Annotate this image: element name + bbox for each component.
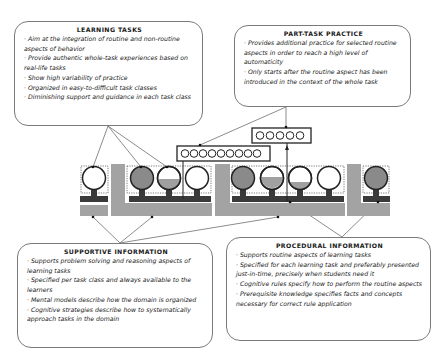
part-task-practice-box: PART-TASK PRACTICE Provides additional p… (234, 25, 411, 107)
learning-tasks-item: Show high variability of practice (24, 73, 195, 83)
supportive-information-item: Mental models describe how the domain is… (27, 295, 205, 305)
supportive-information-item: Specified per task class and always avai… (27, 275, 205, 294)
procedural-information-item: Cognitive rules specify how to perform t… (236, 279, 423, 289)
part-task-practice-item: Only starts after the routine aspect has… (244, 67, 403, 86)
part-task-practice-title: PART-TASK PRACTICE (244, 30, 403, 37)
learning-tasks-item: Provide authentic whole-task experiences… (24, 53, 195, 72)
supportive-information-item: Supports problem solving and reasoning a… (27, 256, 205, 275)
support-bars (80, 196, 390, 202)
learning-tasks-title: LEARNING TASKS (24, 26, 195, 33)
learning-task-circles (83, 166, 388, 197)
procedural-information-item: Supports routine aspects of learning tas… (236, 250, 423, 260)
supportive-information-title: SUPPORTIVE INFORMATION (27, 248, 205, 255)
part-task-practice-item: Provides additional practice for selecte… (244, 38, 403, 67)
supportive-information-box: SUPPORTIVE INFORMATION Supports problem … (17, 243, 213, 348)
procedural-information-item: Prerequisite knowledge specifies facts a… (236, 289, 423, 308)
learning-tasks-box: LEARNING TASKS Aim at the integration of… (14, 21, 203, 126)
supportive-information-item: Cognitive strategies describe how to sys… (27, 305, 205, 324)
learning-tasks-item: Diminishing support and guidance in each… (24, 92, 195, 102)
procedural-information-item: Specified for each learning task and pre… (236, 260, 423, 279)
procedural-information-box: PROCEDURAL INFORMATION Supports routine … (226, 237, 431, 341)
learning-tasks-item: Organized in easy-to-difficult task clas… (24, 83, 195, 93)
learning-tasks-item: Aim at the integration of routine and no… (24, 34, 195, 53)
procedural-information-title: PROCEDURAL INFORMATION (236, 242, 423, 249)
